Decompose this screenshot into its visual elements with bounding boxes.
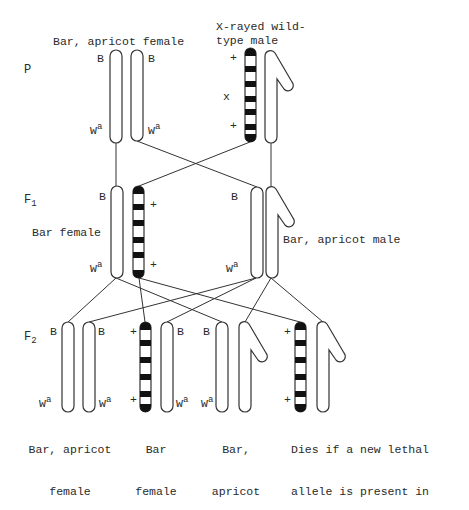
f2-offspring-2-caption: Bar female [126, 415, 186, 510]
allele-b: B [97, 52, 104, 66]
allele-wild: + [150, 258, 157, 272]
note-line: allele is present in [291, 485, 436, 499]
x-chromosome-icon [62, 322, 74, 412]
allele-base: W [39, 397, 46, 410]
irradiated-x-chromosome-icon [245, 48, 256, 142]
allele-wild: + [230, 119, 237, 133]
inheritance-lines [68, 141, 323, 322]
allele-wa: Wa [148, 120, 160, 138]
allele-wa: Wa [90, 120, 102, 138]
generation-label-f2: F2 [24, 330, 37, 346]
xray-mark: x [223, 90, 230, 104]
p-female-chromosomes [110, 50, 143, 143]
x-chromosome-icon [111, 186, 123, 278]
y-chromosome-icon [317, 322, 345, 412]
allele-base: W [90, 124, 97, 137]
irradiated-x-chromosome-icon [295, 322, 306, 412]
y-chromosome-icon [265, 51, 293, 143]
f2-lethal-note: Dies if a new lethal allele is present i… [291, 415, 436, 510]
allele-sup: a [106, 395, 111, 405]
allele-sup: a [97, 122, 102, 132]
allele-sup: a [46, 395, 51, 405]
f2-offspring-1-caption: Bar, apricot female [22, 415, 118, 510]
allele-sup: a [183, 395, 188, 405]
allele-base: W [226, 262, 233, 275]
allele-b: B [203, 325, 210, 339]
f1-male-label: Bar, apricot male [283, 233, 400, 247]
allele-wa: Wa [90, 258, 102, 276]
allele-b: B [99, 190, 106, 204]
allele-wa: Wa [176, 393, 188, 411]
x-chromosome-icon [83, 322, 95, 412]
allele-base: W [201, 397, 208, 410]
caption-line: female [22, 485, 118, 499]
allele-sup: a [97, 260, 102, 270]
allele-sup: a [208, 395, 213, 405]
generation-f2-sub: 2 [31, 336, 36, 346]
x-chromosome-icon [131, 50, 143, 141]
allele-wild: + [284, 393, 291, 407]
allele-b: B [148, 52, 155, 66]
caption-line: Bar [126, 443, 186, 457]
f2-offspring-1-chromosomes [62, 322, 95, 412]
allele-b: B [177, 325, 184, 339]
p-female-label: Bar, apricot female [53, 35, 184, 49]
allele-sup: a [233, 260, 238, 270]
allele-base: W [99, 397, 106, 410]
allele-sup: a [155, 122, 160, 132]
f2-offspring-3-caption: Bar, apricot male [206, 415, 266, 510]
allele-wild: + [230, 51, 237, 65]
y-chromosome-icon [239, 322, 267, 412]
allele-b: B [231, 190, 238, 204]
allele-wild: + [130, 393, 137, 407]
allele-base: W [176, 397, 183, 410]
p-male-chromosomes [245, 48, 293, 143]
allele-wa: Wa [226, 258, 238, 276]
irradiated-x-chromosome-icon [133, 186, 144, 278]
generation-label-p: P [24, 63, 31, 77]
allele-wa: Wa [99, 393, 111, 411]
allele-b: B [98, 325, 105, 339]
f2-offspring-3-chromosomes [216, 322, 267, 412]
x-chromosome-icon [251, 187, 263, 278]
allele-wild: + [284, 325, 291, 339]
x-chromosome-icon [216, 322, 228, 412]
allele-wild: + [130, 325, 137, 339]
x-chromosome-icon [110, 50, 122, 143]
f1-female-label: Bar female [32, 226, 101, 240]
allele-wa: Wa [39, 393, 51, 411]
f2-offspring-4-chromosomes [295, 322, 345, 412]
generation-f1-sub: 1 [31, 199, 36, 209]
note-line: Dies if a new lethal [291, 443, 436, 457]
f2-offspring-2-chromosomes [140, 322, 173, 412]
caption-line: female [126, 485, 186, 499]
caption-line: Bar, apricot [22, 443, 118, 457]
allele-b: B [50, 325, 57, 339]
allele-base: W [90, 262, 97, 275]
generation-label-f1: F1 [24, 193, 37, 209]
p-male-label-line1: X-rayed wild- [216, 20, 306, 34]
caption-line: Bar, [206, 443, 266, 457]
allele-wa: Wa [201, 393, 213, 411]
allele-wild: + [150, 198, 157, 212]
caption-line: apricot [206, 485, 266, 499]
f1-female-chromosomes [111, 186, 144, 278]
allele-base: W [148, 124, 155, 137]
x-chromosome-icon [161, 322, 173, 412]
p-male-label-line2: type male [216, 34, 278, 48]
irradiated-x-chromosome-icon [140, 322, 151, 412]
